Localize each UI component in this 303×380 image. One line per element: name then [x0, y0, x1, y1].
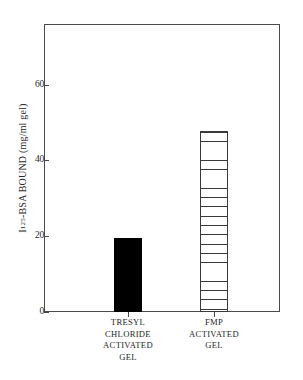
bar-tresyl-chloride-activated-gel — [114, 238, 142, 312]
bar-fmp-activated-gel — [200, 131, 228, 312]
y-axis-title-prefix: I — [17, 229, 29, 233]
bar-chart-figure: 0 20 40 60 I125-BSA BOUND (mg/ml gel) TR… — [0, 0, 303, 380]
y-axis-tick-label-20: 20 — [35, 231, 44, 241]
y-axis-title: I125-BSA BOUND (mg/ml gel) — [12, 24, 34, 312]
x-axis-category-label-tresyl: TRESYL CHLORIDE ACTIVATED GEL — [78, 317, 178, 363]
y-axis-tick-0 — [44, 312, 49, 313]
y-axis-tick-label-0: 0 — [39, 307, 44, 317]
y-axis-title-suffix: -BSA BOUND (mg/ml gel) — [17, 103, 29, 218]
plot-area-frame — [44, 24, 280, 312]
y-axis-tick-label-40: 40 — [35, 155, 44, 165]
x-axis-category-label-fmp: FMP ACTIVATED GEL — [164, 317, 264, 352]
y-axis-tick-20 — [44, 236, 49, 237]
y-axis-tick-60 — [44, 85, 49, 86]
y-axis-tick-label-60: 60 — [35, 80, 44, 90]
y-axis-tick-40 — [44, 160, 49, 161]
